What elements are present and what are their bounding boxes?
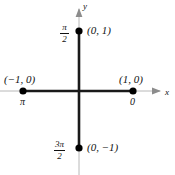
coordinate-label-bottom: (0, −1) [87, 142, 118, 153]
coordinate-label-top: (0, 1) [87, 25, 111, 36]
coordinate-label-right: (1, 0) [119, 74, 143, 85]
coordinate-label-left: (−1, 0) [4, 74, 35, 85]
y-axis-arrow-icon [76, 8, 83, 17]
point-marker-top [75, 27, 82, 34]
point-marker-right [129, 87, 136, 94]
unit-circle-points-figure: y x π 2 (0, 1) (−1, 0) π (1, 0) 0 3π 2 (… [0, 0, 175, 175]
x-axis-label: x [165, 88, 169, 97]
angle-label-pi-over-2: π 2 [60, 23, 69, 44]
angle-denominator-top: 2 [61, 34, 68, 44]
angle-numerator-bottom: 3π [54, 140, 65, 150]
angle-denominator-bottom: 2 [56, 151, 63, 161]
angle-numerator-top: π [61, 23, 68, 33]
x-axis-arrow-icon [152, 88, 161, 95]
point-marker-bottom [75, 144, 82, 151]
y-axis-label: y [83, 2, 87, 11]
angle-label-3pi-over-2: 3π 2 [54, 140, 65, 161]
angle-label-pi: π [20, 97, 25, 107]
point-marker-left [19, 87, 26, 94]
angle-label-zero: 0 [130, 97, 135, 107]
